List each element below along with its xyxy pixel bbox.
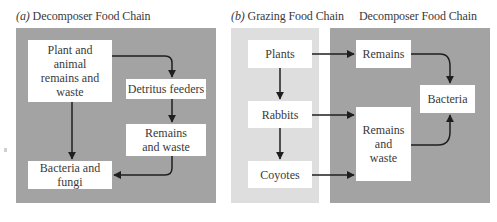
- node-label: Remains and waste: [140, 126, 192, 154]
- node-bacteria: Bacteria: [420, 85, 475, 113]
- panel-b-label: (b): [231, 9, 245, 23]
- node-remains: Remains: [356, 40, 411, 68]
- node-label: Plants: [265, 47, 294, 61]
- node-label: Remains and waste: [360, 123, 407, 165]
- node-label: Bacteria and fungi: [28, 161, 112, 189]
- node-remains-and-waste-a: Remains and waste: [126, 124, 206, 156]
- node-label: Remains: [363, 47, 405, 61]
- node-detritus-feeders: Detritus feeders: [126, 79, 206, 99]
- side-mark: [4, 148, 7, 152]
- node-rabbits: Rabbits: [248, 101, 312, 128]
- node-label: Detritus feeders: [128, 82, 204, 96]
- panel-a-title: (a) Decomposer Food Chain: [16, 9, 151, 24]
- node-label: Bacteria: [428, 92, 468, 106]
- node-label: Coyotes: [260, 168, 299, 182]
- node-remains-and-waste-c: Remains and waste: [356, 107, 411, 181]
- panel-a-label: (a): [16, 9, 30, 23]
- node-label: Plant and animal remains and waste: [34, 43, 106, 99]
- node-plants: Plants: [248, 40, 312, 68]
- panel-a-title-text: Decomposer Food Chain: [33, 9, 151, 23]
- panel-b-title: (b) Grazing Food Chain: [231, 9, 344, 24]
- node-label: Rabbits: [262, 108, 299, 122]
- panel-b-title-text: Grazing Food Chain: [248, 9, 344, 23]
- panel-c-title-text: Decomposer Food Chain: [359, 9, 477, 23]
- node-plant-animal-remains: Plant and animal remains and waste: [28, 40, 112, 102]
- panel-c-title: Decomposer Food Chain: [359, 9, 477, 24]
- node-bacteria-and-fungi: Bacteria and fungi: [28, 161, 112, 189]
- node-coyotes: Coyotes: [248, 161, 312, 188]
